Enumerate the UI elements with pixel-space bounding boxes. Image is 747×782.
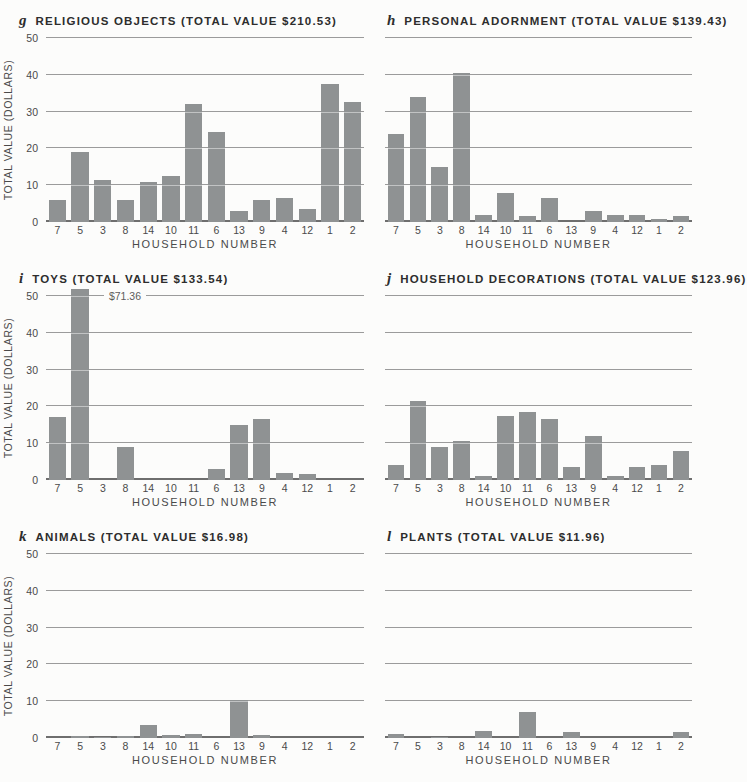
bar-slot-household-10 [495, 542, 517, 738]
y-tick-30: 30 [26, 622, 38, 634]
x-tick-12: 12 [626, 482, 648, 494]
bar-slot-household-4 [604, 284, 626, 480]
x-tick-11: 11 [517, 482, 539, 494]
bar-household-2 [344, 102, 361, 222]
x-tick-1: 1 [319, 482, 342, 494]
x-tick-14: 14 [137, 740, 160, 752]
x-tick-3: 3 [429, 482, 451, 494]
bar-slot-household-4 [273, 284, 296, 480]
bar-slot-household-3 [429, 284, 451, 480]
x-tick-2: 2 [670, 482, 692, 494]
x-tick-1: 1 [319, 224, 342, 236]
bar-household-14 [140, 182, 157, 222]
x-tick-6: 6 [538, 224, 560, 236]
x-tick-4: 4 [273, 740, 296, 752]
offscale-value-annotation: $71.36 [104, 289, 146, 303]
bar-household-13 [230, 425, 247, 480]
x-tick-5: 5 [69, 224, 92, 236]
y-tick-40: 40 [26, 585, 38, 597]
y-tick-30: 30 [26, 364, 38, 376]
bar-household-4 [276, 198, 293, 222]
bars-group [385, 26, 692, 222]
bar-household-3 [431, 447, 448, 480]
bar-slot-household-8 [114, 542, 137, 738]
x-tick-10: 10 [495, 740, 517, 752]
x-tick-14: 14 [473, 482, 495, 494]
bar-household-12 [299, 209, 316, 222]
bar-slot-household-7 [46, 26, 69, 222]
bar-household-8 [117, 200, 134, 222]
x-tick-10: 10 [160, 224, 183, 236]
x-tick-10: 10 [495, 482, 517, 494]
x-tick-3: 3 [91, 224, 114, 236]
bar-slot-household-6 [205, 542, 228, 738]
bar-slot-household-8 [114, 26, 137, 222]
plot-area: $71.36 [46, 296, 364, 480]
bar-household-2 [673, 732, 690, 738]
y-tick-40: 40 [26, 327, 38, 339]
bar-slot-household-13 [228, 284, 251, 480]
bar-household-12 [629, 215, 646, 222]
bar-household-10 [497, 416, 514, 480]
x-tick-12: 12 [626, 740, 648, 752]
bar-slot-household-14 [137, 26, 160, 222]
x-tick-13: 13 [560, 482, 582, 494]
bar-household-7 [388, 134, 405, 222]
x-tick-9: 9 [582, 224, 604, 236]
bar-household-13 [230, 211, 247, 222]
bar-slot-household-1 [319, 542, 342, 738]
bar-household-11 [185, 104, 202, 222]
x-tick-4: 4 [604, 740, 626, 752]
bar-slot-household-4 [604, 542, 626, 738]
bar-slot-household-12 [626, 284, 648, 480]
bar-slot-household-2 [341, 284, 364, 480]
x-tick-10: 10 [160, 740, 183, 752]
y-axis-label: TOTAL VALUE (DOLLARS) [2, 576, 14, 717]
bar-slot-household-2 [670, 26, 692, 222]
chart-body: TOTAL VALUE (DOLLARS) 50403020100 [0, 554, 364, 738]
bar-slot-household-6 [205, 26, 228, 222]
x-tick-6: 6 [538, 740, 560, 752]
bar-household-13 [563, 732, 580, 738]
bars-group [46, 26, 364, 222]
x-axis: 7538141011613941212 [46, 480, 364, 496]
bar-household-4 [607, 215, 624, 222]
x-axis-title: HOUSEHOLD NUMBER [0, 754, 364, 770]
bar-household-9 [253, 735, 270, 738]
x-tick-2: 2 [341, 740, 364, 752]
bar-household-5 [71, 289, 88, 480]
x-tick-11: 11 [517, 224, 539, 236]
x-tick-13: 13 [228, 740, 251, 752]
bar-household-5 [71, 152, 88, 222]
bar-household-9 [585, 436, 602, 480]
bar-slot-household-8 [114, 284, 137, 480]
x-axis: 7538141011613941212 [385, 480, 692, 496]
bar-slot-household-14 [137, 284, 160, 480]
x-tick-4: 4 [273, 482, 296, 494]
chart-body [385, 296, 692, 480]
x-tick-4: 4 [604, 482, 626, 494]
chart-personal-adornment: h PERSONAL ADORNMENT (TOTAL VALUE $139.4… [385, 12, 692, 254]
bar-slot-household-7 [46, 542, 69, 738]
bar-slot-household-11 [182, 26, 205, 222]
x-tick-2: 2 [670, 740, 692, 752]
bar-slot-household-3 [91, 284, 114, 480]
bar-slot-household-4 [273, 542, 296, 738]
bar-slot-household-9 [250, 26, 273, 222]
bar-slot-household-2 [341, 26, 364, 222]
chart-row-2: i TOYS (TOTAL VALUE $133.54) TOTAL VALUE… [0, 270, 713, 512]
x-tick-4: 4 [273, 224, 296, 236]
chart-animals: k ANIMALS (TOTAL VALUE $16.98) TOTAL VAL… [0, 528, 364, 770]
bar-household-10 [162, 176, 179, 222]
x-axis-title: HOUSEHOLD NUMBER [0, 496, 364, 512]
x-tick-2: 2 [341, 482, 364, 494]
bar-slot-household-8 [451, 284, 473, 480]
bars-group [385, 542, 692, 738]
x-tick-12: 12 [296, 224, 319, 236]
bar-slot-household-2 [670, 284, 692, 480]
x-tick-13: 13 [560, 224, 582, 236]
x-tick-10: 10 [160, 482, 183, 494]
x-tick-7: 7 [46, 224, 69, 236]
bar-slot-household-12 [626, 542, 648, 738]
y-tick-50: 50 [26, 548, 38, 560]
